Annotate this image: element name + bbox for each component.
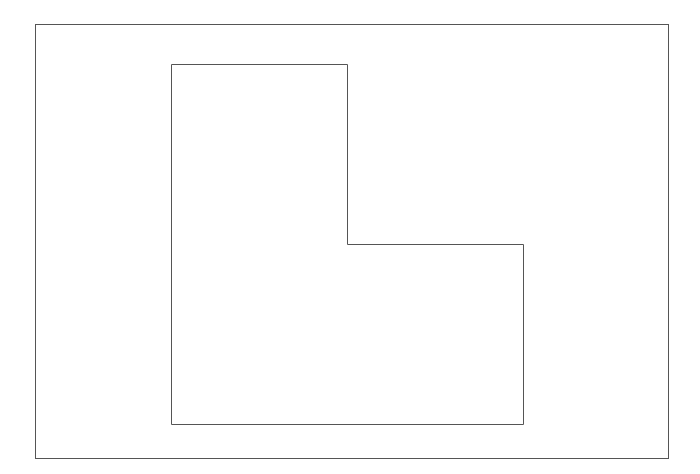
diagram-canvas <box>0 0 700 474</box>
l-shaped-polygon <box>172 65 524 425</box>
outer-frame <box>36 25 669 459</box>
